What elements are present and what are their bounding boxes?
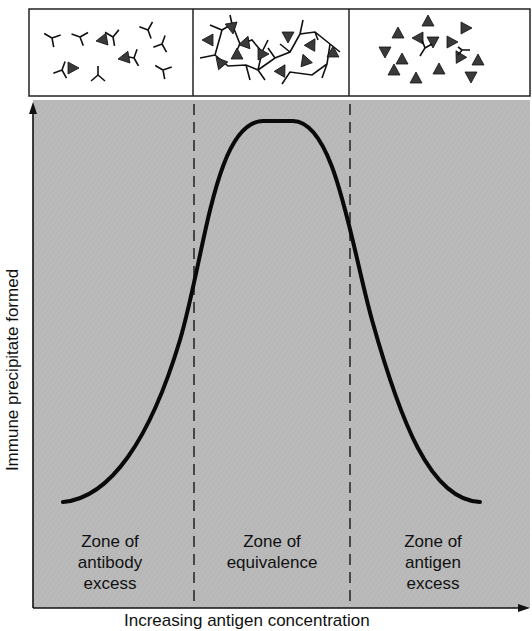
top-panels [29, 9, 530, 96]
zone-equivalence-line1: Zone of [212, 531, 332, 552]
zone-antigen-line3: excess [378, 573, 488, 594]
zone-label-equivalence: Zone of equivalence [212, 531, 332, 573]
zone-antigen-line1: Zone of [378, 531, 488, 552]
zone-antibody-line3: excess [55, 573, 165, 594]
x-axis-label: Increasing antigen concentration [124, 611, 370, 631]
zone-label-antigen-excess: Zone of antigen excess [378, 531, 488, 594]
zone-antibody-line2: antibody [55, 552, 165, 573]
zone-antibody-line1: Zone of [55, 531, 165, 552]
zone-antigen-line2: antigen [378, 552, 488, 573]
zone-label-antibody-excess: Zone of antibody excess [55, 531, 165, 594]
y-axis-label: Immune precipitate formed [3, 269, 23, 471]
zone-equivalence-line2: equivalence [212, 552, 332, 573]
